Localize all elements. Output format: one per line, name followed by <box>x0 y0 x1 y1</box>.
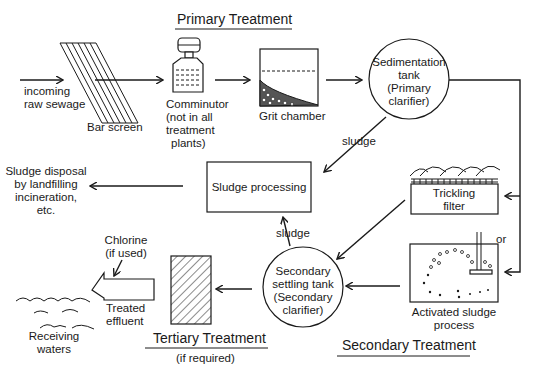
incoming-raw-sewage: incoming raw sewage <box>20 80 85 110</box>
sludge-label-primary: sludge <box>342 135 376 147</box>
svg-text:settling tank: settling tank <box>272 278 334 290</box>
svg-text:Treated: Treated <box>106 302 145 314</box>
svg-text:raw sewage: raw sewage <box>24 98 85 110</box>
svg-text:Bar screen: Bar screen <box>87 121 143 133</box>
sludge-label-secondary: sludge <box>276 227 310 239</box>
svg-text:Sludge processing: Sludge processing <box>212 181 307 193</box>
tertiary-treatment-heading: Tertiary Treatment (if required) <box>145 330 268 364</box>
comminutor-icon <box>173 38 203 92</box>
svg-text:treatment: treatment <box>166 124 215 136</box>
treated-effluent-arrow <box>92 273 154 300</box>
svg-text:(Primary: (Primary <box>387 82 431 94</box>
svg-text:incoming: incoming <box>24 85 70 97</box>
svg-text:etc.: etc. <box>37 204 56 216</box>
svg-text:Chlorine: Chlorine <box>105 234 148 246</box>
svg-text:(Secondary: (Secondary <box>274 291 333 303</box>
svg-text:Receiving: Receiving <box>29 330 80 342</box>
svg-text:tank: tank <box>398 69 420 81</box>
svg-text:plants): plants) <box>171 137 206 149</box>
chlorine-input: Chlorine (if used) <box>105 234 148 276</box>
svg-text:process: process <box>434 319 475 331</box>
bar-screen: Bar screen <box>60 43 143 133</box>
trickling-filter: Trickling filter <box>410 166 500 214</box>
receiving-waters: Receiving waters <box>29 330 80 355</box>
svg-text:effluent: effluent <box>106 315 144 327</box>
secondary-treatment-heading: Secondary Treatment <box>337 337 476 356</box>
wastewater-treatment-diagram: Primary Treatment incoming raw sewage Ba… <box>0 0 542 379</box>
activated-sludge-process: Activated sludge process <box>410 232 498 331</box>
sludge-processing-box: Sludge processing <box>207 162 311 212</box>
svg-text:incineration,: incineration, <box>15 191 77 203</box>
svg-text:Tertiary Treatment: Tertiary Treatment <box>153 330 266 346</box>
svg-text:(not in all: (not in all <box>166 111 213 123</box>
svg-text:(if used): (if used) <box>105 247 147 259</box>
grit-chamber-icon <box>260 49 318 106</box>
svg-text:(if required): (if required) <box>176 352 235 364</box>
tertiary-filter <box>171 256 211 324</box>
secondary-settling-tank: Secondary settling tank (Secondary clari… <box>263 247 343 327</box>
trickling-filter-icon <box>410 166 500 184</box>
sludge-disposal: Sludge disposal by landfilling incinerat… <box>5 165 86 216</box>
svg-text:Sedimentation: Sedimentation <box>372 56 446 68</box>
svg-text:clarifier): clarifier) <box>389 95 430 107</box>
grit-chamber: Grit chamber <box>259 49 326 122</box>
svg-text:Trickling: Trickling <box>433 187 475 199</box>
svg-text:Primary Treatment: Primary Treatment <box>177 11 292 27</box>
or-label: or <box>496 233 506 245</box>
svg-text:waters: waters <box>36 343 71 355</box>
water-waves-icon <box>16 298 94 329</box>
comminutor: Comminutor (not in all treatment plants) <box>166 38 229 149</box>
svg-text:clarifier): clarifier) <box>283 304 324 316</box>
sedimentation-tank: Sedimentation tank (Primary clarifier) <box>369 39 449 119</box>
svg-text:filter: filter <box>443 200 465 212</box>
svg-text:by landfilling: by landfilling <box>14 178 77 190</box>
svg-text:Secondary: Secondary <box>276 265 331 277</box>
svg-text:Grit chamber: Grit chamber <box>259 110 326 122</box>
svg-text:Sludge disposal: Sludge disposal <box>5 165 86 177</box>
svg-text:Activated sludge: Activated sludge <box>412 306 496 318</box>
bar-screen-icon <box>60 43 138 123</box>
primary-treatment-heading: Primary Treatment <box>175 11 292 29</box>
svg-text:Secondary Treatment: Secondary Treatment <box>342 337 476 353</box>
svg-text:Comminutor: Comminutor <box>166 98 229 110</box>
